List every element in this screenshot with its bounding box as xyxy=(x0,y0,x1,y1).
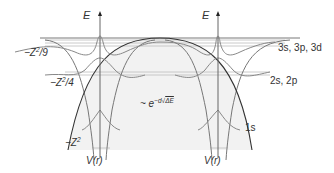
barrier-shade xyxy=(68,38,252,150)
right-axis-arrow-icon xyxy=(216,11,220,16)
level-label-n1: −Z2 xyxy=(65,137,81,148)
tunneling-annotation: ~ e−d√ΔE xyxy=(140,98,174,109)
left-axis-potential-label: V(r) xyxy=(86,156,103,166)
level-label-n3: −Z2/9 xyxy=(24,47,48,58)
state-label-n1: 1s xyxy=(245,123,256,133)
right-axis-potential-label: V(r) xyxy=(204,156,221,166)
state-label-n3: 3s, 3p, 3d xyxy=(278,43,322,53)
left-axis-energy-label: E xyxy=(83,10,90,21)
left-axis-arrow-icon xyxy=(98,11,102,16)
right-axis-energy-label: E xyxy=(202,10,209,21)
state-label-n2: 2s, 2p xyxy=(270,76,297,86)
level-label-n2: −Z2/4 xyxy=(50,77,74,88)
